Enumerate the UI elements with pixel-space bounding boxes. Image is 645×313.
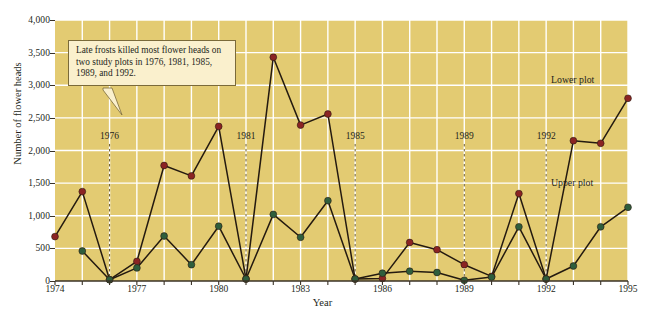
data-point-upper-plot <box>79 248 86 255</box>
data-point-upper-plot <box>597 223 604 230</box>
data-point-upper-plot <box>625 204 632 211</box>
frost-year-label: 1989 <box>455 131 474 141</box>
data-point-upper-plot <box>379 270 386 277</box>
data-point-lower-plot <box>270 54 277 61</box>
data-point-upper-plot <box>188 261 195 268</box>
x-axis-tick-label: 1992 <box>537 284 556 294</box>
data-point-upper-plot <box>161 233 168 240</box>
y-axis-title: Number of flower heads <box>12 44 23 184</box>
data-point-upper-plot <box>570 263 577 270</box>
frost-year-label: 1985 <box>346 131 365 141</box>
data-point-upper-plot <box>325 197 332 204</box>
x-axis-tick-label: 1995 <box>619 284 638 294</box>
data-point-upper-plot <box>270 211 277 218</box>
frost-year-label: 1992 <box>537 131 556 141</box>
data-point-lower-plot <box>434 246 441 253</box>
data-point-lower-plot <box>625 95 632 102</box>
data-point-lower-plot <box>52 233 59 240</box>
frost-annotation-callout: Late frosts killed most flower heads on … <box>68 40 236 86</box>
data-point-lower-plot <box>188 173 195 180</box>
data-point-lower-plot <box>134 258 141 265</box>
x-axis-tick-label: 1977 <box>127 284 146 294</box>
data-point-lower-plot <box>161 162 168 169</box>
data-point-lower-plot <box>570 137 577 144</box>
x-axis-tick-label: 1974 <box>46 284 65 294</box>
data-point-lower-plot <box>297 122 304 129</box>
data-point-upper-plot <box>434 269 441 276</box>
y-axis-tick-marks <box>0 20 56 281</box>
x-axis-tick-label: 1989 <box>455 284 474 294</box>
data-point-upper-plot <box>297 234 304 241</box>
data-point-upper-plot <box>134 265 141 272</box>
data-point-upper-plot <box>406 268 413 275</box>
data-point-upper-plot <box>215 223 222 230</box>
series-line-lower-plot <box>55 57 628 280</box>
data-point-lower-plot <box>597 140 604 147</box>
series-label-lower-plot: Lower plot <box>551 74 594 85</box>
x-axis-title: Year <box>0 297 645 308</box>
data-point-upper-plot <box>516 223 523 230</box>
frost-annotation-text: Late frosts killed most flower heads on … <box>76 45 221 78</box>
data-point-lower-plot <box>79 188 86 195</box>
frost-year-label: 1976 <box>100 131 119 141</box>
x-axis-tick-label: 1983 <box>291 284 310 294</box>
data-point-lower-plot <box>461 261 468 268</box>
data-point-lower-plot <box>516 190 523 197</box>
frost-year-label: 1981 <box>237 131 256 141</box>
data-point-lower-plot <box>325 111 332 118</box>
chart-figure: 05001,0001,5002,0002,5003,0003,5004,000 … <box>0 0 645 313</box>
data-point-lower-plot <box>215 123 222 130</box>
data-point-upper-plot <box>488 274 495 281</box>
x-axis-tick-label: 1986 <box>373 284 392 294</box>
data-point-lower-plot <box>406 239 413 246</box>
series-label-upper-plot: Upper plot <box>551 177 593 188</box>
x-axis-tick-label: 1980 <box>209 284 228 294</box>
